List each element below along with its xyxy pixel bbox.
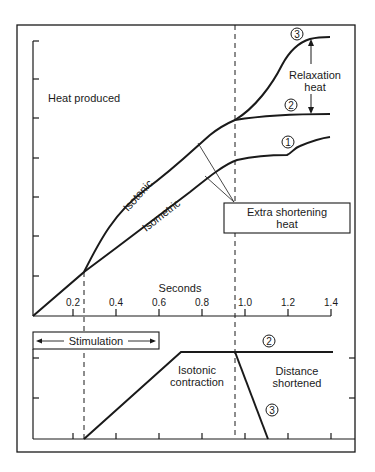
muscle-heat-diagram: 0.2 0.4 0.6 0.8 1.0 1.2 1.4 Seconds Heat…	[0, 0, 375, 472]
isometric-label: Isometric	[140, 196, 183, 233]
tick-1.2: 1.2	[281, 297, 295, 308]
upper-y-axis	[33, 41, 39, 316]
tick-0.6: 0.6	[152, 297, 166, 308]
marker-2-lower: 2	[263, 335, 275, 347]
tick-0.2: 0.2	[66, 297, 80, 308]
x-tick-labels: 0.2 0.4 0.6 0.8 1.0 1.2 1.4	[66, 297, 338, 308]
x-axis-label: Seconds	[159, 282, 202, 294]
marker-3: 3	[291, 28, 303, 40]
distance-shortened-label: Distance	[276, 365, 319, 377]
stimulation-label: Stimulation	[69, 335, 123, 347]
svg-text:2: 2	[266, 336, 272, 347]
marker-1: 1	[282, 136, 294, 148]
isotonic-contraction-label-2: contraction	[170, 376, 224, 388]
distance-shortened-label-2: shortened	[273, 377, 322, 389]
extra-shortening-leaders	[198, 143, 234, 202]
lower-axes	[33, 349, 355, 439]
svg-text:3: 3	[269, 405, 275, 416]
relaxation-heat-label-2: heat	[304, 81, 325, 93]
y-axis-label: Heat produced	[48, 92, 120, 104]
svg-text:2: 2	[288, 100, 294, 111]
tick-0.4: 0.4	[109, 297, 123, 308]
tick-0.8: 0.8	[195, 297, 209, 308]
relaxation-lengthening-trace	[235, 352, 268, 439]
extra-shortening-label: Extra shortening	[247, 206, 327, 218]
seconds-x-axis	[33, 309, 331, 316]
isotonic-label: Isotonic	[121, 177, 156, 214]
tick-1.0: 1.0	[238, 297, 252, 308]
extra-shortening-label-2: heat	[276, 218, 297, 230]
isotonic-contraction-label: Isotonic	[178, 364, 216, 376]
relaxation-heat-label: Relaxation	[289, 69, 341, 81]
marker-3-lower: 3	[266, 404, 278, 416]
svg-text:3: 3	[294, 29, 300, 40]
svg-text:1: 1	[285, 137, 291, 148]
tick-1.4: 1.4	[324, 297, 338, 308]
marker-2: 2	[285, 99, 297, 111]
